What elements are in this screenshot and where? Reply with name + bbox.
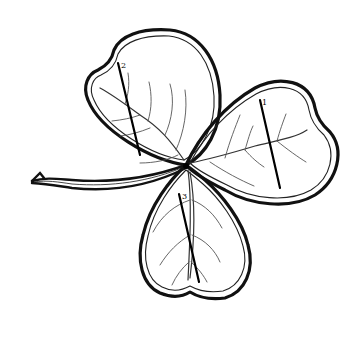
stem (32, 165, 186, 189)
clover-drawing: 2 1 3 (0, 0, 353, 340)
clover-diagram: 2 1 3 (0, 0, 353, 340)
leaf-3: 3 (140, 165, 250, 299)
leaf-junction (183, 163, 189, 169)
leaf-label-3: 3 (182, 192, 187, 201)
leaf-2: 2 (86, 30, 221, 165)
leaf-label-1: 1 (262, 98, 267, 107)
leaf-label-2: 2 (121, 61, 126, 70)
